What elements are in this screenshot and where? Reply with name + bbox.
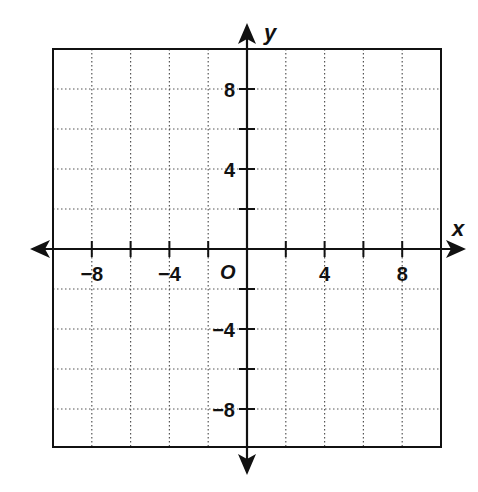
axes — [30, 23, 466, 475]
y-tick-label: −8 — [212, 399, 235, 421]
x-tick-label: −8 — [80, 263, 103, 285]
x-tick-label: −4 — [158, 263, 182, 285]
x-tick-label: 4 — [319, 263, 331, 285]
y-tick-label: 8 — [224, 79, 235, 101]
coordinate-plane: −8−44884−4−8 x y O — [0, 0, 478, 492]
x-tick-label: 8 — [397, 263, 408, 285]
y-tick-label: −4 — [212, 319, 236, 341]
y-tick-label: 4 — [224, 159, 236, 181]
y-axis-label: y — [263, 20, 278, 45]
origin-label: O — [220, 261, 236, 283]
x-axis-label: x — [451, 216, 465, 241]
